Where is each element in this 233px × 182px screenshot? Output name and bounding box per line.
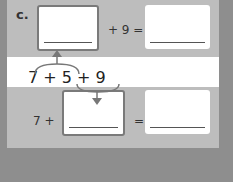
grouping-arrows-icon bbox=[0, 0, 233, 182]
